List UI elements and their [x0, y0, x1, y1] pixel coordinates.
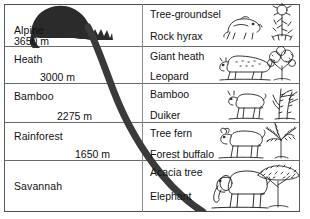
tree-fern-illustration [263, 122, 299, 160]
species-label-elephant: Elephant [150, 190, 191, 202]
forest-buffalo-illustration [215, 124, 269, 160]
species-label-giant-heath: Giant heath [150, 50, 204, 62]
giant-heath-illustration [266, 46, 298, 82]
altitude-label-1650: 1650 m [75, 148, 110, 160]
altitude-label-2275: 2275 m [57, 110, 92, 122]
tree-groundsel-illustration [268, 3, 296, 43]
duiker-illustration [225, 88, 269, 122]
rock-hyrax-illustration [222, 8, 266, 42]
species-label-tree-groundsel: Tree-groundsel [150, 8, 221, 20]
vegetation-zonation-diagram: Alpine Heath Bamboo Rainforest Savannah … [0, 0, 310, 219]
species-label-leopard: Leopard [150, 70, 189, 82]
zone-name-rainforest: Rainforest [14, 130, 63, 142]
zone-name-savannah: Savannah [14, 180, 62, 192]
species-label-tree-fern: Tree fern [150, 127, 192, 139]
altitude-label-3000: 3000 m [40, 71, 75, 83]
species-label-duiker: Duiker [150, 109, 180, 121]
zone-name-heath: Heath [14, 53, 43, 65]
species-label-rock-hyrax: Rock hyrax [150, 30, 203, 42]
acacia-tree-illustration [255, 163, 301, 209]
species-label-forest-buffalo: Forest buffalo [150, 148, 214, 160]
species-label-bamboo: Bamboo [150, 88, 189, 100]
zone-name-bamboo: Bamboo [14, 90, 54, 102]
altitude-label-3650: 3650 m [14, 35, 49, 47]
bamboo-illustration [272, 85, 298, 121]
species-label-acacia-tree: Acacia tree [150, 166, 203, 178]
